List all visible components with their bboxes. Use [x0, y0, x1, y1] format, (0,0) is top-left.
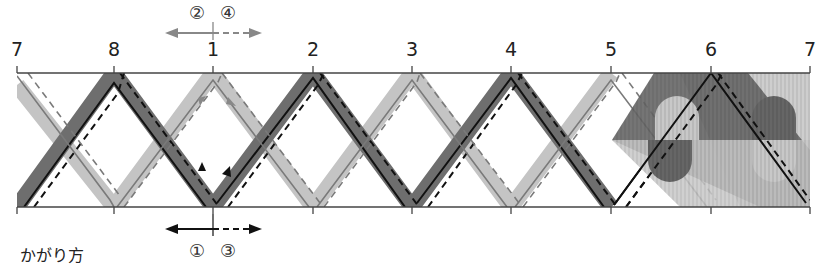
mark-label-7-right: 7	[804, 40, 816, 59]
mark-label-7-left: 7	[11, 40, 23, 59]
mark-label-8: 8	[108, 40, 120, 59]
fabric-pattern-overlay	[612, 73, 810, 207]
step-label-2: ②	[189, 4, 205, 22]
caption-title: かがり方	[20, 242, 84, 266]
mark-label-6: 6	[705, 40, 717, 59]
mark-label-5: 5	[605, 40, 617, 59]
mark-label-4: 4	[505, 40, 517, 59]
arrow-up-icon	[198, 162, 206, 171]
stitch-strip	[0, 73, 810, 207]
arrow-up-icon	[222, 166, 231, 177]
step-label-4: ④	[220, 4, 236, 22]
mark-label-3: 3	[406, 40, 418, 59]
step-label-1: ①	[189, 242, 205, 260]
bottom-direction-arrow	[165, 214, 262, 236]
mark-label-2: 2	[307, 40, 319, 59]
mark-label-1: 1	[207, 40, 219, 59]
step-label-3: ③	[220, 242, 236, 260]
